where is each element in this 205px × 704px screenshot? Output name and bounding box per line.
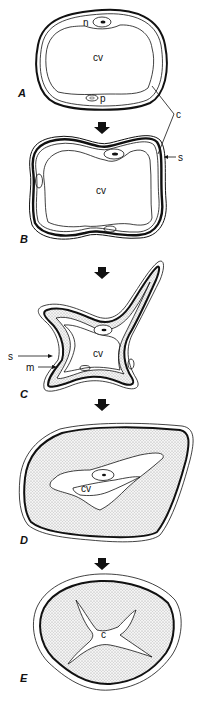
label-vacuole-c: cv	[93, 348, 103, 359]
panel-label-b: B	[20, 233, 28, 245]
panel-label-d: D	[20, 534, 28, 546]
panel-label-c: C	[20, 388, 29, 400]
label-cell-wall: c	[176, 109, 181, 120]
label-vacuole-d: cv	[81, 483, 91, 494]
arrowhead-icon	[48, 354, 53, 358]
panel-e	[33, 574, 181, 690]
label-middle-layer: m	[26, 362, 34, 373]
arrow-down-icon	[94, 122, 110, 134]
label-secondary-wall-c: s	[8, 351, 13, 362]
label-secondary-wall-b: s	[178, 152, 183, 163]
panel-c	[38, 261, 163, 391]
label-lumen: c	[101, 629, 106, 640]
label-nucleus: n	[83, 17, 89, 28]
cell-wall-pointer	[152, 86, 174, 154]
label-vacuole-a: cv	[93, 52, 103, 63]
panel-label-e: E	[20, 672, 28, 684]
label-vacuole-b: cv	[96, 185, 106, 196]
arrow-down-icon	[94, 267, 110, 279]
label-plastid: p	[100, 93, 106, 104]
panel-d	[19, 423, 193, 542]
cell-development-diagram: n cv p A c cv B s cv C s m	[0, 0, 205, 704]
arrow-down-icon	[94, 399, 110, 411]
arrow-down-icon	[94, 558, 110, 570]
panel-label-a: A	[17, 87, 26, 99]
